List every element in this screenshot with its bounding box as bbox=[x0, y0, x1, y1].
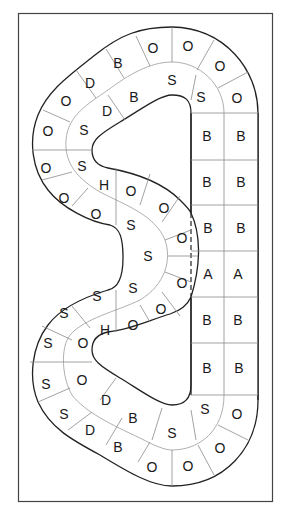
grid-cell: B bbox=[236, 174, 245, 190]
grid-cell: B bbox=[236, 220, 245, 236]
race-track-diagram: OOOOBDOSSBDOSOSHOOOOSOSOSSSHOOSOSOSDDBBS… bbox=[0, 0, 287, 518]
track-cell-letter: S bbox=[126, 217, 135, 233]
track-cell-letter: S bbox=[167, 72, 176, 88]
track-cell-letter: O bbox=[77, 372, 88, 388]
track-cell-letter: D bbox=[85, 422, 95, 438]
track-cell-letter: O bbox=[78, 335, 89, 351]
track-cell-letter: S bbox=[77, 158, 86, 174]
track-cell-letter: S bbox=[79, 122, 88, 138]
track-cell-letter: B bbox=[128, 410, 137, 426]
grid-cell: B bbox=[203, 220, 212, 236]
track-cell-letter: O bbox=[91, 206, 102, 222]
track-cell-letter: H bbox=[99, 177, 109, 193]
track-cell-letter: S bbox=[128, 280, 137, 296]
track-cell-letter: O bbox=[215, 440, 226, 456]
grid-cell: B bbox=[236, 128, 245, 144]
track-cell-letter: O bbox=[177, 275, 188, 291]
track-cell-letter: S bbox=[59, 305, 68, 321]
track-cell-letter: D bbox=[85, 75, 95, 91]
track-cell-letter: O bbox=[126, 183, 137, 199]
grid-area bbox=[191, 113, 258, 395]
track-cell-letter: O bbox=[147, 459, 158, 475]
grid-cell: B bbox=[202, 174, 211, 190]
track-cell-letter: S bbox=[167, 425, 176, 441]
track-cell-letter: O bbox=[41, 160, 52, 176]
track-cell-letter: O bbox=[215, 58, 226, 74]
track-cell-letter: O bbox=[232, 90, 243, 106]
track-cell-letter: O bbox=[59, 190, 70, 206]
track-cell-letter: B bbox=[129, 89, 138, 105]
track-cell-letter: S bbox=[43, 335, 52, 351]
grid-cell: B bbox=[233, 312, 242, 328]
track-cell-letter: D bbox=[102, 103, 112, 119]
track-cell-letter: O bbox=[148, 40, 159, 56]
track-cell-letter: B bbox=[113, 439, 122, 455]
track-cell-letter: D bbox=[101, 392, 111, 408]
track-cell-letter: O bbox=[183, 458, 194, 474]
track-cell-letter: O bbox=[156, 301, 167, 317]
grid-cell: B bbox=[202, 128, 211, 144]
track-cell-letter: S bbox=[200, 401, 209, 417]
grid-cell: B bbox=[234, 360, 243, 376]
track-cell-letter: O bbox=[128, 317, 139, 333]
track-cell-letter: S bbox=[196, 89, 205, 105]
track-cell-letter: O bbox=[61, 93, 72, 109]
track-cell-letter: S bbox=[143, 248, 152, 264]
grid-cell: B bbox=[202, 360, 211, 376]
grid-cell: B bbox=[202, 312, 211, 328]
track-cell-letter: O bbox=[177, 230, 188, 246]
grid-cell: A bbox=[233, 266, 243, 282]
track-cell-letter: S bbox=[59, 406, 68, 422]
track-cell-letter: O bbox=[183, 38, 194, 54]
track-cell-letter: O bbox=[43, 123, 54, 139]
track-cell-letter: O bbox=[159, 200, 170, 216]
track-cell-letter: S bbox=[41, 376, 50, 392]
track-cell-letter: O bbox=[232, 406, 243, 422]
grid-cell: A bbox=[203, 266, 213, 282]
track-cell-letter: H bbox=[100, 322, 110, 338]
track-cell-letter: S bbox=[92, 288, 101, 304]
track-cell-letter: B bbox=[113, 55, 122, 71]
